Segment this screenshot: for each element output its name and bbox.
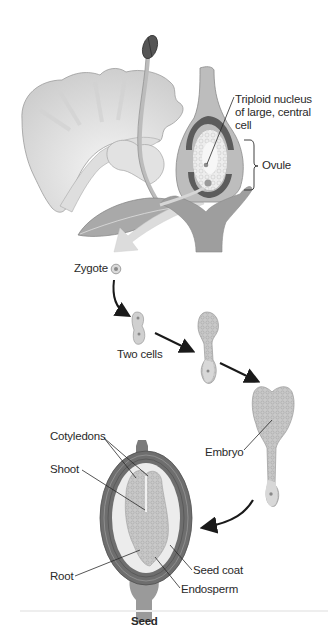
label-shoot: Shoot bbox=[50, 463, 79, 476]
label-seed-coat: Seed coat bbox=[193, 564, 243, 577]
embryo bbox=[252, 387, 294, 507]
arrow-zygote-to-two-cells bbox=[114, 280, 127, 314]
two-cell-stage bbox=[132, 312, 145, 344]
label-zygote: Zygote bbox=[74, 262, 108, 275]
arrow-embryo-to-seed bbox=[206, 500, 253, 527]
zygote bbox=[111, 264, 121, 274]
label-endosperm: Endosperm bbox=[181, 583, 238, 596]
label-triploid-line3: cell bbox=[235, 119, 251, 132]
proembryo bbox=[198, 312, 219, 383]
arrow-proembryo-to-embryo bbox=[220, 363, 255, 380]
seed-development-diagram: Triploid nucleus of large, central cell … bbox=[0, 0, 328, 643]
petal bbox=[22, 68, 183, 212]
label-two-cells: Two cells bbox=[117, 348, 163, 361]
label-triploid-line2: of large, central bbox=[235, 106, 311, 119]
petal-lobe bbox=[107, 140, 164, 184]
label-ovule: Ovule bbox=[262, 159, 291, 172]
label-seed: Seed bbox=[131, 615, 158, 628]
seed bbox=[100, 440, 192, 622]
label-embryo: Embryo bbox=[205, 446, 243, 459]
label-root: Root bbox=[50, 570, 74, 583]
ovule-bracket bbox=[244, 140, 258, 190]
label-triploid-line1: Triploid nucleus bbox=[235, 93, 312, 106]
label-cotyledons: Cotyledons bbox=[50, 430, 106, 443]
